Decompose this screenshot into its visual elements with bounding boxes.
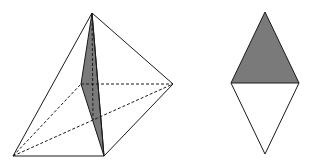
rhombus-shaded-half	[231, 12, 299, 83]
edge-apex-right	[92, 13, 173, 84]
diagram-canvas	[0, 0, 313, 166]
geometry-figure	[0, 0, 313, 166]
pyramid-figure	[13, 13, 173, 156]
edge-apex-base_left	[13, 13, 92, 156]
edge-base_right-right	[104, 84, 173, 156]
rhombus-figure	[231, 12, 299, 154]
